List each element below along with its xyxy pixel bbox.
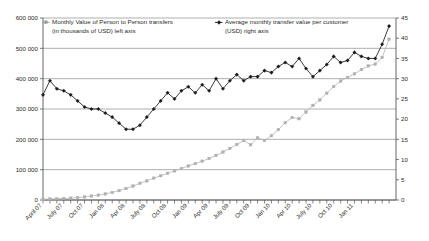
data-point — [284, 121, 287, 124]
data-point — [118, 189, 121, 192]
data-point — [360, 68, 363, 71]
axis-label-x: Oct 09 — [234, 202, 251, 219]
data-point — [152, 177, 155, 180]
axis-label-x: Jan 08 — [88, 202, 105, 219]
axis-label-x: April 07 — [24, 202, 43, 221]
axis-tick-label-x-group: Jan 11 — [338, 202, 355, 219]
axis-label-x: July 09 — [212, 202, 230, 220]
axis-label-x: Apr 10 — [275, 202, 292, 219]
data-point — [353, 73, 356, 76]
axis-tick-label-x-group: Jan 09 — [171, 202, 188, 219]
axis-label-right: 0 — [401, 196, 405, 203]
legend-label-line2: (in thousands of USD) left axis — [52, 27, 136, 34]
axis-tick-label-x-group: Oct 07 — [67, 202, 84, 219]
data-point — [104, 193, 107, 196]
data-point — [242, 139, 245, 142]
data-point — [325, 92, 328, 95]
data-point — [249, 143, 252, 146]
axis-label-right: 30 — [401, 75, 408, 82]
axis-label-x: Oct 07 — [67, 202, 84, 219]
data-point — [298, 117, 301, 120]
axis-label-right: 25 — [401, 95, 408, 102]
data-point — [381, 56, 384, 59]
data-point — [305, 111, 308, 114]
data-point — [222, 151, 225, 154]
axis-label-left: 100 000 — [16, 166, 39, 173]
data-point — [90, 195, 93, 198]
axis-tick-label-x-group: July 07 — [46, 202, 64, 220]
data-point — [56, 197, 59, 200]
axis-label-right: 15 — [401, 136, 408, 143]
line-chart: 0100 000200 000300 000400 000500 000600 … — [0, 0, 429, 241]
data-point — [187, 165, 190, 168]
axis-label-left: 300 000 — [16, 105, 39, 112]
axis-tick-label-x-group: July 10 — [295, 202, 313, 220]
data-point — [139, 182, 142, 185]
chart-container: 0100 000200 000300 000400 000500 000600 … — [0, 0, 429, 241]
axis-label-left: 200 000 — [16, 136, 39, 143]
data-point — [256, 137, 259, 140]
axis-label-right: 10 — [401, 156, 408, 163]
axis-tick-label-x-group: Oct 08 — [151, 202, 168, 219]
data-point — [62, 197, 65, 200]
data-point — [215, 154, 218, 157]
data-point — [49, 198, 52, 201]
data-point — [76, 196, 79, 199]
data-point — [270, 134, 273, 137]
axis-tick-label-x-group: April 07 — [24, 202, 43, 221]
axis-label-right: 45 — [401, 14, 408, 21]
axis-tick-label-x-group: July 08 — [129, 202, 147, 220]
axis-label-right: 35 — [401, 55, 408, 62]
axis-label-x: Apr 08 — [109, 202, 126, 219]
data-point — [111, 191, 114, 194]
data-point — [319, 99, 322, 102]
data-point — [277, 128, 280, 131]
data-point — [173, 170, 176, 173]
data-point — [208, 157, 211, 160]
axis-label-x: Oct 08 — [151, 202, 168, 219]
data-point — [263, 139, 266, 142]
axis-label-right: 20 — [401, 115, 408, 122]
axis-tick-label-x-group: Apr 09 — [192, 202, 209, 219]
data-point — [42, 198, 45, 201]
axis-tick-label-x-group: Apr 10 — [275, 202, 292, 219]
axis-tick-label-x-group: Jan 08 — [88, 202, 105, 219]
axis-label-x: July 10 — [295, 202, 313, 220]
axis-label-x: Jan 09 — [171, 202, 188, 219]
axis-label-x: Jan 11 — [338, 202, 355, 219]
data-point — [201, 160, 204, 163]
data-point — [132, 185, 135, 188]
data-point — [125, 187, 128, 190]
data-point — [374, 63, 377, 66]
data-point — [291, 116, 294, 119]
axis-label-right: 5 — [401, 176, 405, 183]
axis-label-x: Apr 09 — [192, 202, 209, 219]
axis-tick-label-x-group: Oct 10 — [317, 202, 334, 219]
data-point — [146, 180, 149, 183]
legend-marker-square-icon — [45, 21, 48, 24]
data-point — [367, 65, 370, 68]
axis-label-left: 500 000 — [16, 45, 39, 52]
axis-tick-label-x-group: Jan 10 — [254, 202, 271, 219]
legend-label-line1: Monthly Value of Person to Person transf… — [52, 18, 173, 25]
data-point — [229, 147, 232, 150]
data-point — [97, 194, 100, 197]
legend-label-line1: Average monthly transfer value per custo… — [225, 18, 348, 25]
data-point — [159, 174, 162, 177]
data-point — [83, 196, 86, 199]
data-point — [236, 143, 239, 146]
axis-tick-label-x-group: Oct 09 — [234, 202, 251, 219]
axis-label-x: Oct 10 — [317, 202, 334, 219]
data-point — [332, 85, 335, 88]
axis-label-left: 400 000 — [16, 75, 39, 82]
axis-label-x: Jan 10 — [254, 202, 271, 219]
data-point — [194, 162, 197, 165]
data-point — [69, 197, 72, 200]
axis-label-left: 600 000 — [16, 14, 39, 21]
data-point — [339, 80, 342, 83]
legend-label-line2: (USD) right axis — [225, 27, 269, 34]
data-point — [312, 104, 315, 107]
axis-label-x: July 08 — [129, 202, 147, 220]
data-point — [346, 76, 349, 79]
data-point — [180, 167, 183, 170]
